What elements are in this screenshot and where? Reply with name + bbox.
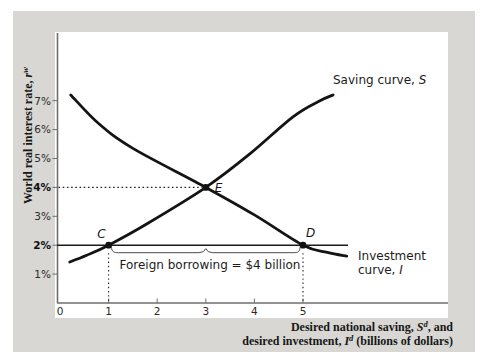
investment-curve-label-line1: Investment [358, 249, 426, 263]
investment-curve-label-line2: curve, I [358, 263, 403, 277]
figure-scan: 1%2%3%4%5%6%7% 012345 ECD Saving curve, … [0, 0, 481, 363]
x-tick-label: 1 [105, 305, 112, 317]
point-C-dot [105, 242, 112, 249]
x-tick-label: 3 [202, 305, 209, 317]
x-axis-title-line2: desired investment, Id (billions of doll… [242, 333, 453, 348]
x-tick-label: 5 [300, 305, 307, 317]
x-tick-label: 0 [57, 305, 64, 317]
point-D-label: D [306, 226, 315, 240]
y-tick-label: 4% [33, 181, 51, 193]
y-tick-label: 3% [34, 210, 51, 222]
y-axis-title: World real interest rate, rw [20, 67, 35, 204]
x-tick-label: 4 [251, 305, 258, 317]
y-tick-label: 7% [34, 95, 51, 107]
point-E-label: E [215, 181, 223, 195]
x-tick-label: 2 [154, 305, 161, 317]
figure-svg: 1%2%3%4%5%6%7% 012345 ECD Saving curve, … [0, 0, 481, 363]
point-E-dot [202, 184, 209, 191]
y-tick-label: 6% [34, 123, 51, 135]
point-D-dot [300, 242, 307, 249]
y-tick-label: 2% [33, 239, 51, 251]
x-axis-title-line1: Desired national saving, Sd, and [291, 319, 453, 334]
y-tick-label: 5% [34, 152, 51, 164]
saving-curve-label: Saving curve, S [333, 73, 427, 87]
y-tick-label: 1% [34, 268, 51, 280]
foreign-borrowing-annotation: Foreign borrowing = $4 billion [120, 258, 301, 272]
point-C-label: C [97, 227, 106, 241]
